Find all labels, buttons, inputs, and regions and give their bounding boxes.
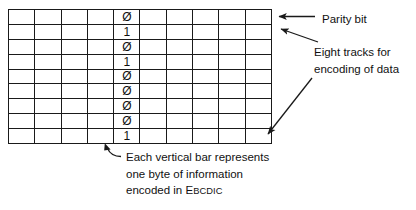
tape-cell	[88, 10, 114, 25]
tape-cell	[167, 99, 193, 114]
tape-cell	[9, 25, 35, 40]
tape-cell	[35, 55, 61, 70]
tape-cell	[219, 40, 245, 55]
tape-cell	[167, 84, 193, 99]
tape-cell	[88, 55, 114, 70]
tape-cell	[140, 70, 166, 85]
parity-bit-label-line: Parity bit	[322, 11, 367, 28]
tape-cell	[62, 99, 88, 114]
tape-cell	[140, 129, 166, 144]
tape-cell	[219, 99, 245, 114]
tape-cell	[9, 55, 35, 70]
parity-bit-label: Parity bit	[322, 11, 367, 28]
tape-cell	[140, 40, 166, 55]
tape-cell-bit: 1	[114, 25, 140, 40]
figure-canvas: Ø1Ø1ØØØØ1 Parity bit Eight tracks fo	[0, 0, 416, 210]
tape-cell	[167, 114, 193, 129]
tape-cell	[246, 55, 272, 70]
tape-cell	[246, 114, 272, 129]
tape-cell	[193, 129, 219, 144]
tape-cell	[167, 70, 193, 85]
byte-description-label: Each vertical bar represents one byte of…	[126, 149, 269, 200]
tape-cell	[140, 114, 166, 129]
tape-cell	[62, 114, 88, 129]
tape-cell	[9, 114, 35, 129]
tape-cell	[88, 40, 114, 55]
tape-cell	[193, 55, 219, 70]
tape-cell	[35, 10, 61, 25]
tape-cell	[246, 40, 272, 55]
tape-cell	[62, 129, 88, 144]
eight-tracks-label-line1: Eight tracks for	[314, 44, 399, 61]
tape-cell	[140, 25, 166, 40]
tape-cell	[219, 129, 245, 144]
tape-cell-bit: Ø	[114, 40, 140, 55]
tape-cell	[193, 40, 219, 55]
tape-cell	[193, 84, 219, 99]
tape-cell	[167, 25, 193, 40]
byte-column-hook-arrow	[104, 143, 121, 156]
tape-cell-bit: Ø	[114, 84, 140, 99]
tape-cell	[167, 10, 193, 25]
tape-cell	[193, 25, 219, 40]
tape-cell	[9, 70, 35, 85]
byte-description-line3: encoded in EBCDIC	[126, 182, 269, 200]
tape-cell	[219, 25, 245, 40]
tape-cell	[35, 25, 61, 40]
tape-cell	[88, 84, 114, 99]
tape-cell	[193, 114, 219, 129]
byte-description-line3-prefix: encoded in	[126, 184, 185, 196]
tape-cell	[140, 99, 166, 114]
eight-tracks-label-line2: encoding of data	[314, 61, 399, 78]
tape-cell	[246, 129, 272, 144]
tape-cell	[62, 70, 88, 85]
tape-cell	[88, 114, 114, 129]
tape-cell	[193, 10, 219, 25]
tape-cell	[62, 25, 88, 40]
tape-cell	[35, 40, 61, 55]
tape-cell	[140, 84, 166, 99]
tape-cell	[246, 99, 272, 114]
eight-tracks-label: Eight tracks for encoding of data	[314, 44, 399, 77]
tape-cell	[140, 10, 166, 25]
tape-cell	[219, 70, 245, 85]
tape-cell	[219, 10, 245, 25]
tape-cell	[35, 84, 61, 99]
tape-cell-bit: 1	[114, 129, 140, 144]
tape-cell-bit: Ø	[114, 114, 140, 129]
tape-cell	[246, 25, 272, 40]
byte-description-line2: one byte of information	[126, 166, 269, 183]
tape-cell-bit: Ø	[114, 10, 140, 25]
tape-cell	[246, 84, 272, 99]
tape-cell	[9, 84, 35, 99]
tape-cell-bit: Ø	[114, 99, 140, 114]
ebcdic-acronym-rest: BCDIC	[193, 186, 222, 196]
tape-cell	[62, 40, 88, 55]
tape-cell	[167, 129, 193, 144]
tape-cell	[219, 114, 245, 129]
tape-cell	[88, 99, 114, 114]
tape-cell	[9, 129, 35, 144]
tape-cell	[9, 10, 35, 25]
tape-cell	[167, 55, 193, 70]
eight-tracks-arrow-lower	[268, 78, 312, 134]
tape-cell	[219, 84, 245, 99]
tape-cell	[246, 10, 272, 25]
tape-cell	[88, 70, 114, 85]
tape-cell	[167, 40, 193, 55]
tape-cell	[35, 70, 61, 85]
tape-cell	[88, 129, 114, 144]
tape-cell	[9, 99, 35, 114]
tape-cell	[35, 99, 61, 114]
tape-cell	[9, 40, 35, 55]
tape-cell	[193, 70, 219, 85]
tape-cell	[62, 84, 88, 99]
tape-cell	[62, 10, 88, 25]
tape-cell	[62, 55, 88, 70]
tape-cell	[219, 55, 245, 70]
ebcdic-acronym-initial: E	[185, 184, 193, 196]
tape-cell-bit: 1	[114, 55, 140, 70]
tape-grid: Ø1Ø1ØØØØ1	[8, 9, 272, 144]
eight-tracks-arrow-upper	[281, 29, 318, 42]
byte-description-line1: Each vertical bar represents	[126, 149, 269, 166]
